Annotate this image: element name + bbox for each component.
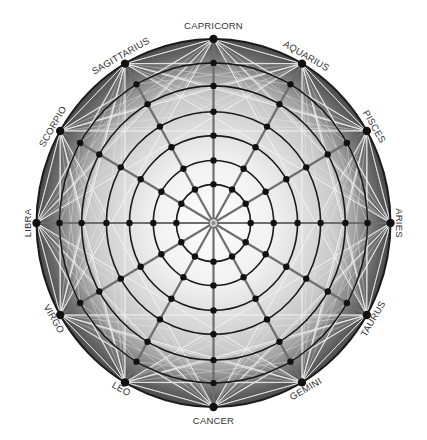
ring-node: [262, 251, 268, 257]
ring-node: [77, 140, 83, 146]
sign-label-capricorn: CAPRICORN: [184, 20, 243, 31]
ring-node: [210, 157, 216, 163]
ring-node: [133, 358, 139, 364]
ring-node: [126, 220, 132, 226]
ring-node: [150, 220, 156, 226]
ring-node: [342, 220, 348, 226]
ring-node: [303, 275, 309, 281]
ring-node: [118, 164, 124, 170]
ring-node: [96, 288, 102, 294]
ring-node: [252, 144, 258, 150]
ring-node: [344, 300, 350, 306]
ring-node: [144, 339, 150, 345]
sign-label-cancer: CANCER: [193, 415, 234, 426]
ring-node: [287, 81, 293, 87]
ring-node: [210, 83, 216, 89]
sign-label-libra: LIBRA: [22, 208, 33, 237]
sign-node-capricorn: [209, 35, 217, 43]
ring-node: [158, 189, 164, 195]
ring-node: [180, 274, 186, 280]
ring-node: [77, 300, 83, 306]
ring-node: [364, 220, 370, 226]
ring-node: [178, 200, 184, 206]
hub-inner: [212, 221, 216, 225]
ring-node: [242, 239, 248, 245]
ring-node: [103, 220, 109, 226]
ring-node: [283, 176, 289, 182]
ring-node: [276, 339, 282, 345]
ring-node: [192, 253, 198, 259]
ring-node: [144, 101, 150, 107]
ring-node: [168, 144, 174, 150]
ring-node: [157, 123, 163, 129]
ring-node: [262, 189, 268, 195]
ring-node: [168, 295, 174, 301]
ring-node: [137, 176, 143, 182]
ring-node: [210, 132, 216, 138]
ring-node: [317, 220, 323, 226]
ring-node: [178, 239, 184, 245]
sign-node-aries: [386, 219, 394, 227]
ring-node: [303, 164, 309, 170]
ring-node: [56, 220, 62, 226]
ring-node: [210, 380, 216, 386]
ring-node: [242, 200, 248, 206]
center-hub: [209, 219, 218, 228]
ring-node: [210, 181, 216, 187]
ring-node: [192, 186, 198, 192]
ring-node: [210, 258, 216, 264]
ring-node: [287, 358, 293, 364]
ring-node: [173, 220, 179, 226]
ring-node: [264, 316, 270, 322]
ring-node: [324, 288, 330, 294]
ring-node: [210, 108, 216, 114]
ring-node: [344, 140, 350, 146]
sign-node-cancer: [209, 403, 217, 411]
ring-node: [133, 81, 139, 87]
ring-node: [210, 282, 216, 288]
ring-node: [240, 274, 246, 280]
ring-node: [137, 264, 143, 270]
zodiac-wheel: ARIESPISCESAQUARIUSCAPRICORNSAGITTARIUSS…: [0, 0, 427, 440]
ring-node: [276, 101, 282, 107]
sign-node-libra: [32, 219, 40, 227]
ring-node: [247, 220, 253, 226]
ring-node: [229, 253, 235, 259]
ring-node: [270, 220, 276, 226]
ring-node: [229, 186, 235, 192]
ring-node: [210, 60, 216, 66]
ring-node: [210, 331, 216, 337]
ring-node: [210, 307, 216, 313]
ring-node: [180, 166, 186, 172]
ring-node: [294, 220, 300, 226]
ring-node: [210, 357, 216, 363]
sign-label-aries: ARIES: [394, 208, 405, 238]
ring-node: [78, 220, 84, 226]
ring-node: [324, 151, 330, 157]
ring-node: [96, 151, 102, 157]
ring-node: [157, 316, 163, 322]
ring-node: [283, 264, 289, 270]
ring-node: [240, 166, 246, 172]
ring-node: [252, 295, 258, 301]
ring-node: [158, 251, 164, 257]
ring-node: [118, 275, 124, 281]
ring-node: [264, 123, 270, 129]
